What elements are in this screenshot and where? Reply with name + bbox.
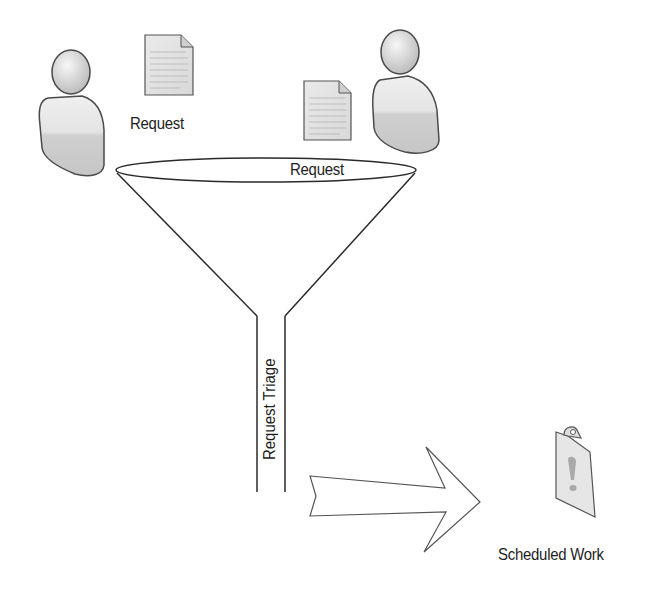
request-label-left: Request <box>130 114 184 134</box>
clipboard-alert-icon <box>556 427 595 517</box>
document-icon <box>145 35 193 95</box>
flow-arrow <box>310 447 480 552</box>
document-icon <box>304 81 351 140</box>
funnel-neck-label: Request Triage <box>260 359 280 460</box>
person-icon <box>39 50 104 176</box>
scheduled-work-label: Scheduled Work <box>498 545 604 565</box>
funnel-mouth-label: Request <box>290 160 344 180</box>
request-triage-diagram: Request Request Request Triage Scheduled… <box>0 0 663 597</box>
diagram-shapes <box>0 0 663 597</box>
person-icon <box>373 30 439 153</box>
